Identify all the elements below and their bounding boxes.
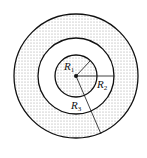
concentric-circles-diagram: R1 R2 R3 — [0, 0, 147, 158]
center-point — [74, 74, 78, 78]
